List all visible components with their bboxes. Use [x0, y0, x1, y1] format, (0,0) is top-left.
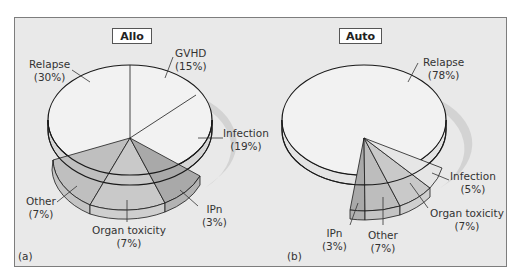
auto-title: Auto	[339, 28, 382, 44]
auto-label-organ-toxicity: Organ toxicity(7%)	[430, 207, 504, 232]
auto-label-relapse: Relapse(78%)	[423, 56, 464, 81]
auto-label-other: Other(7%)	[368, 229, 398, 254]
auto-label-infection: Infection(5%)	[450, 170, 496, 195]
auto-label-ipn: IPn(3%)	[322, 227, 347, 252]
allo-label-relapse: Relapse(30%)	[29, 58, 70, 83]
auto-pie	[282, 63, 472, 225]
allo-label-infection: Infection(19%)	[223, 127, 269, 152]
allo-pie	[48, 57, 237, 222]
allo-label-gvhd: GVHD(15%)	[175, 47, 207, 72]
panel-label-a: (a)	[18, 250, 33, 262]
allo-title: Allo	[112, 28, 152, 44]
allo-label-ipn: IPn(3%)	[202, 203, 227, 228]
allo-label-other: Other(7%)	[26, 195, 56, 220]
allo-label-organ-toxicity: Organ toxicity(7%)	[92, 224, 166, 249]
panel-label-b: (b)	[287, 250, 302, 262]
